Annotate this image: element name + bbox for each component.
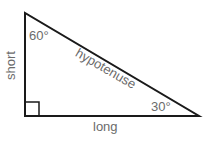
long-side-label: long [93,120,118,133]
short-side-label: short [4,51,17,80]
angle-60-label: 60° [29,29,49,42]
right-angle-marker [25,102,39,116]
angle-30-label: 30° [151,100,171,113]
